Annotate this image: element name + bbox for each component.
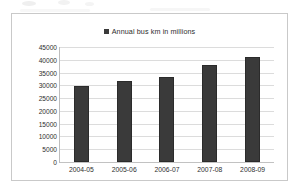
scan-smudge — [20, 9, 90, 12]
bar-2005-06[interactable] — [117, 81, 132, 162]
gridline — [60, 162, 274, 163]
x-axis-tick-label: 2005-06 — [103, 166, 146, 173]
chart-legend: Annual bus km in millions — [12, 27, 287, 36]
bar-slot — [103, 47, 146, 162]
y-axis-tick-label: 35000 — [39, 69, 57, 76]
bar-2008-09[interactable] — [245, 57, 260, 162]
y-axis-tick-label: 0 — [53, 159, 57, 166]
plot-area — [60, 47, 274, 162]
scan-smudge — [150, 8, 210, 11]
y-axis-tick-label: 5000 — [42, 146, 57, 153]
bar-slot — [60, 47, 103, 162]
y-axis-tick-label: 15000 — [39, 120, 57, 127]
legend-label: Annual bus km in millions — [112, 27, 196, 36]
bar-2004-05[interactable] — [74, 86, 89, 162]
x-axis-tick-label: 2004-05 — [60, 166, 103, 173]
legend-swatch-icon — [104, 29, 109, 34]
y-axis-tick-label: 10000 — [39, 133, 57, 140]
bar-slot — [231, 47, 274, 162]
bar-2006-07[interactable] — [159, 77, 174, 162]
y-axis-tick-label: 45000 — [39, 44, 57, 51]
chart-frame: Annual bus km in millions 45000400003500… — [11, 13, 288, 181]
scan-speck — [85, 2, 94, 6]
y-axis-tick-label: 30000 — [39, 82, 57, 89]
y-axis-labels: 4500040000350003000025000200001500010000… — [26, 47, 57, 162]
bar-series — [60, 47, 274, 162]
scan-speck — [58, 0, 70, 5]
bar-slot — [188, 47, 231, 162]
x-axis-labels: 2004-052005-062006-072007-082008-09 — [60, 166, 274, 173]
y-axis-tick-label: 40000 — [39, 56, 57, 63]
x-axis-tick-label: 2007-08 — [188, 166, 231, 173]
y-axis-tick-label: 25000 — [39, 95, 57, 102]
scan-speck — [22, 1, 36, 6]
x-axis-tick-label: 2008-09 — [231, 166, 274, 173]
x-axis-tick-label: 2006-07 — [146, 166, 189, 173]
scan-artifacts — [0, 0, 301, 14]
bar-2007-08[interactable] — [202, 65, 217, 162]
bar-slot — [146, 47, 189, 162]
y-axis-tick-label: 20000 — [39, 107, 57, 114]
